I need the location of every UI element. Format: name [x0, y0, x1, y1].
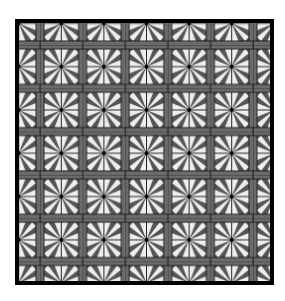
- pattern-field: [17, 21, 272, 283]
- pattern-artwork: [0, 0, 285, 301]
